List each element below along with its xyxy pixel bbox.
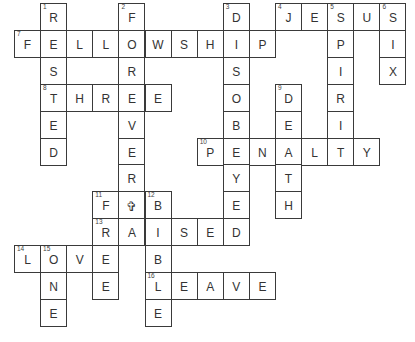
crossword-cell[interactable]: B	[145, 245, 172, 273]
cell-letter: E	[154, 307, 162, 321]
cell-letter: F	[24, 38, 31, 52]
crossword-cell[interactable]: I	[379, 30, 406, 58]
crossword-cell[interactable]: S	[171, 218, 198, 246]
clue-number: 11	[95, 192, 102, 199]
crossword-cell[interactable]: E	[197, 218, 224, 246]
crossword-cell[interactable]: E	[275, 111, 302, 139]
crossword-cell[interactable]: V	[118, 111, 145, 139]
cell-letter: R	[336, 92, 345, 106]
crossword-cell[interactable]: E	[249, 272, 276, 300]
crossword-cell[interactable]: 13R	[92, 218, 119, 246]
crossword-cell[interactable]: A	[197, 272, 224, 300]
crossword-cell[interactable]: P	[327, 30, 354, 58]
crossword-cell[interactable]: 9D	[275, 84, 302, 112]
crossword-cell[interactable]: E	[223, 191, 250, 219]
cell-letter: V	[76, 253, 84, 267]
crossword-cell[interactable]: 5S	[327, 3, 354, 31]
crossword-cell[interactable]: D	[40, 138, 67, 166]
crossword-cell[interactable]: X	[379, 57, 406, 85]
clue-number: 14	[17, 246, 24, 253]
crossword-cell[interactable]: I	[223, 30, 250, 58]
crossword-cell[interactable]: W	[145, 30, 172, 58]
crossword-cell[interactable]: 11F	[92, 191, 119, 219]
crossword-cell[interactable]: E	[92, 245, 119, 273]
cell-letter: A	[206, 280, 214, 294]
crossword-cell[interactable]: R	[118, 164, 145, 192]
crossword-cell[interactable]: ✞	[118, 191, 145, 219]
crossword-cell[interactable]: E	[92, 272, 119, 300]
crossword-cell[interactable]: A	[118, 218, 145, 246]
cell-letter: V	[232, 280, 240, 294]
crossword-cell[interactable]: R	[118, 57, 145, 85]
crossword-cell[interactable]: T	[275, 164, 302, 192]
crossword-cell[interactable]: E	[223, 138, 250, 166]
crossword-cell[interactable]: E	[40, 30, 67, 58]
crossword-cell[interactable]: I	[327, 111, 354, 139]
crossword-cell[interactable]: E	[145, 84, 172, 112]
crossword-cell[interactable]: E	[145, 299, 172, 327]
crossword-cell[interactable]: S	[40, 57, 67, 85]
cell-letter: U	[362, 11, 371, 25]
crossword-cell[interactable]: H	[275, 191, 302, 219]
cell-letter: N	[49, 280, 58, 294]
crossword-cell[interactable]: Y	[223, 164, 250, 192]
crossword-cell[interactable]: 16L	[145, 272, 172, 300]
cell-letter: E	[102, 280, 110, 294]
crossword-cell[interactable]: S	[171, 30, 198, 58]
crossword-cell[interactable]: 10P	[197, 138, 224, 166]
crossword-cell[interactable]: Y	[353, 138, 380, 166]
crossword-cell[interactable]: U	[353, 3, 380, 31]
cell-letter: B	[154, 199, 162, 213]
cell-letter: O	[127, 38, 136, 52]
crossword-cell[interactable]: D	[223, 218, 250, 246]
crossword-cell[interactable]: L	[301, 138, 328, 166]
crossword-cell[interactable]: R	[327, 84, 354, 112]
cell-letter: F	[128, 11, 135, 25]
crossword-cell[interactable]: E	[118, 84, 145, 112]
crossword-cell[interactable]: L	[92, 30, 119, 58]
crossword-cell[interactable]: 2F	[118, 3, 145, 31]
crossword-cell[interactable]: V	[223, 272, 250, 300]
crossword-cell[interactable]: 1R	[40, 3, 67, 31]
clue-number: 7	[17, 31, 21, 38]
cell-letter: P	[258, 38, 266, 52]
crossword-cell[interactable]: 14L	[14, 245, 41, 273]
crossword-cell[interactable]: V	[66, 245, 93, 273]
crossword-cell[interactable]: 8T	[40, 84, 67, 112]
cell-letter: E	[284, 119, 292, 133]
crossword-cell[interactable]: E	[301, 3, 328, 31]
cell-letter: R	[128, 65, 137, 79]
crossword-cell[interactable]: 15O	[40, 245, 67, 273]
crossword-cell[interactable]: B	[223, 111, 250, 139]
crossword-cell[interactable]: L	[66, 30, 93, 58]
crossword-cell[interactable]: 6S	[379, 3, 406, 31]
crossword-cell[interactable]: E	[40, 299, 67, 327]
cell-letter: L	[76, 38, 83, 52]
cell-letter: J	[286, 11, 292, 25]
crossword-cell[interactable]: A	[275, 138, 302, 166]
crossword-cell[interactable]: E	[118, 138, 145, 166]
crossword-cell[interactable]: O	[118, 30, 145, 58]
crossword-cell[interactable]: 3D	[223, 3, 250, 31]
crossword-cell[interactable]: R	[92, 84, 119, 112]
crossword-cell[interactable]: T	[327, 138, 354, 166]
cell-letter: T	[50, 92, 57, 106]
crossword-cell[interactable]: 7F	[14, 30, 41, 58]
cell-letter: B	[232, 119, 240, 133]
crossword-cell[interactable]: I	[145, 218, 172, 246]
crossword-cell[interactable]: N	[249, 138, 276, 166]
crossword-cell[interactable]: P	[249, 30, 276, 58]
cell-letter: D	[232, 11, 241, 25]
crossword-cell[interactable]: 12B	[145, 191, 172, 219]
cell-letter: R	[101, 226, 110, 240]
cell-letter: E	[128, 92, 136, 106]
crossword-cell[interactable]: S	[223, 57, 250, 85]
crossword-cell[interactable]: N	[40, 272, 67, 300]
crossword-cell[interactable]: H	[66, 84, 93, 112]
crossword-cell[interactable]: E	[171, 272, 198, 300]
crossword-cell[interactable]: H	[197, 30, 224, 58]
crossword-cell[interactable]: O	[223, 84, 250, 112]
crossword-cell[interactable]: I	[327, 57, 354, 85]
crossword-cell[interactable]: 4J	[275, 3, 302, 31]
crossword-cell[interactable]: E	[40, 111, 67, 139]
